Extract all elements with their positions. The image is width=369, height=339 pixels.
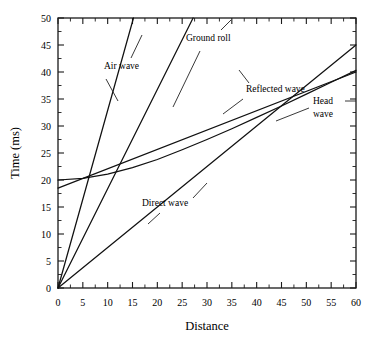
x-tick-label: 0 [56, 297, 61, 308]
y-tick-label: 50 [41, 13, 51, 24]
leader-reflected-lo [223, 99, 243, 114]
plot-frame [58, 18, 356, 288]
y-tick-label: 0 [46, 283, 51, 294]
x-tick-label: 45 [277, 297, 287, 308]
x-tick-label: 30 [202, 297, 212, 308]
series-label-head-wave-line2: wave [313, 109, 333, 119]
axis-tick-labels: 0510152025303540455055600510152025303540… [41, 13, 361, 309]
series-curve-reflected-wave [58, 70, 356, 180]
y-tick-label: 15 [41, 202, 51, 213]
leader-air-wave [131, 35, 142, 58]
y-tick-label: 20 [41, 175, 51, 186]
leader-head-wave [276, 108, 309, 121]
leader-direct-lo [148, 213, 160, 224]
x-tick-label: 10 [103, 297, 113, 308]
y-tick-label: 40 [41, 67, 51, 78]
x-tick-label: 5 [80, 297, 85, 308]
x-tick-label: 20 [152, 297, 162, 308]
x-tick-label: 35 [227, 297, 237, 308]
data-series-group [58, 18, 356, 288]
y-axis-title: Time (ms) [8, 127, 22, 179]
series-label-head-wave-line1: Head [313, 96, 333, 106]
leader-reflected [239, 70, 249, 83]
x-tick-label: 25 [177, 297, 187, 308]
series-label-reflected-wave: Reflected wave [246, 84, 305, 94]
chart-canvas: 0510152025303540455055600510152025303540… [0, 0, 369, 339]
x-tick-label: 55 [326, 297, 336, 308]
x-axis-title: Distance [185, 319, 229, 333]
series-label-air-wave: Air wave [104, 61, 139, 71]
x-tick-label: 60 [351, 297, 361, 308]
series-curve-direct-wave [58, 45, 356, 288]
series-label-ground-roll: Ground roll [186, 33, 231, 43]
leader-air-wave-lower [106, 79, 118, 101]
leader-ground-roll [221, 20, 231, 30]
plot-frame-rect [58, 18, 356, 288]
axis-ticks [58, 18, 356, 288]
y-tick-label: 30 [41, 121, 51, 132]
series-label-direct-wave: Direct wave [142, 198, 188, 208]
y-tick-label: 5 [46, 256, 51, 267]
y-tick-label: 45 [41, 40, 51, 51]
y-tick-label: 10 [41, 229, 51, 240]
y-tick-label: 35 [41, 94, 51, 105]
x-tick-label: 15 [128, 297, 138, 308]
series-curve-air-wave [58, 18, 133, 288]
x-tick-label: 40 [252, 297, 262, 308]
leader-direct-up [193, 183, 207, 198]
x-tick-label: 50 [301, 297, 311, 308]
y-tick-label: 25 [41, 148, 51, 159]
leader-ground-roll-lo [173, 51, 200, 107]
travel-time-chart-figure: 0510152025303540455055600510152025303540… [0, 0, 369, 339]
annotation-leaders [106, 20, 356, 224]
